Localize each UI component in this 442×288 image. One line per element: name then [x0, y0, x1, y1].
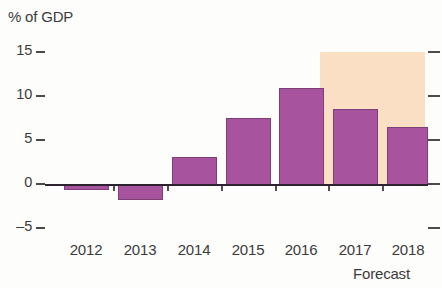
x-axis-line — [45, 184, 428, 186]
bar-2018 — [387, 127, 428, 185]
x-label-2012: 2012 — [59, 241, 113, 258]
y-tick-dash-15 — [36, 51, 45, 53]
x-tick-2 — [221, 186, 223, 191]
x-label-2015: 2015 — [221, 241, 275, 258]
y-tick-label-0: 0 — [24, 174, 32, 190]
bar-2014 — [172, 157, 217, 185]
x-tick-1 — [167, 186, 169, 191]
y-tick-label-10: 10 — [16, 86, 32, 102]
x-tick-0 — [113, 186, 115, 191]
right-tick-5 — [428, 139, 440, 141]
y-tick-dash-10 — [36, 95, 45, 97]
forecast-annotation-label: Forecast — [328, 265, 435, 282]
bar-2017 — [333, 109, 378, 185]
x-label-2017: 2017 — [328, 241, 382, 258]
plot-area: 15 10 5 0 –5 — [0, 0, 442, 288]
right-tick-15 — [428, 51, 440, 53]
x-tick-3 — [275, 186, 277, 191]
bar-2013 — [118, 185, 163, 200]
y-tick-label-5: 5 — [24, 130, 32, 146]
right-tick-0 — [428, 183, 440, 185]
x-label-2013: 2013 — [113, 241, 167, 258]
y-tick-label-15: 15 — [16, 42, 32, 58]
bar-2015 — [226, 118, 271, 185]
right-tick-neg5 — [428, 227, 440, 229]
x-label-2016: 2016 — [274, 241, 328, 258]
bar-chart: % of GDP 15 10 5 0 –5 — [0, 0, 442, 288]
x-label-2018: 2018 — [381, 241, 435, 258]
x-label-2014: 2014 — [167, 241, 221, 258]
right-tick-10 — [428, 95, 440, 97]
y-tick-label-neg5: –5 — [16, 218, 32, 234]
bar-2016 — [279, 88, 324, 185]
y-tick-dash-neg5 — [36, 227, 45, 229]
x-tick-4 — [328, 186, 330, 191]
y-tick-dash-5 — [36, 139, 45, 141]
y-tick-dash-0 — [36, 183, 45, 185]
x-tick-5 — [382, 186, 384, 191]
